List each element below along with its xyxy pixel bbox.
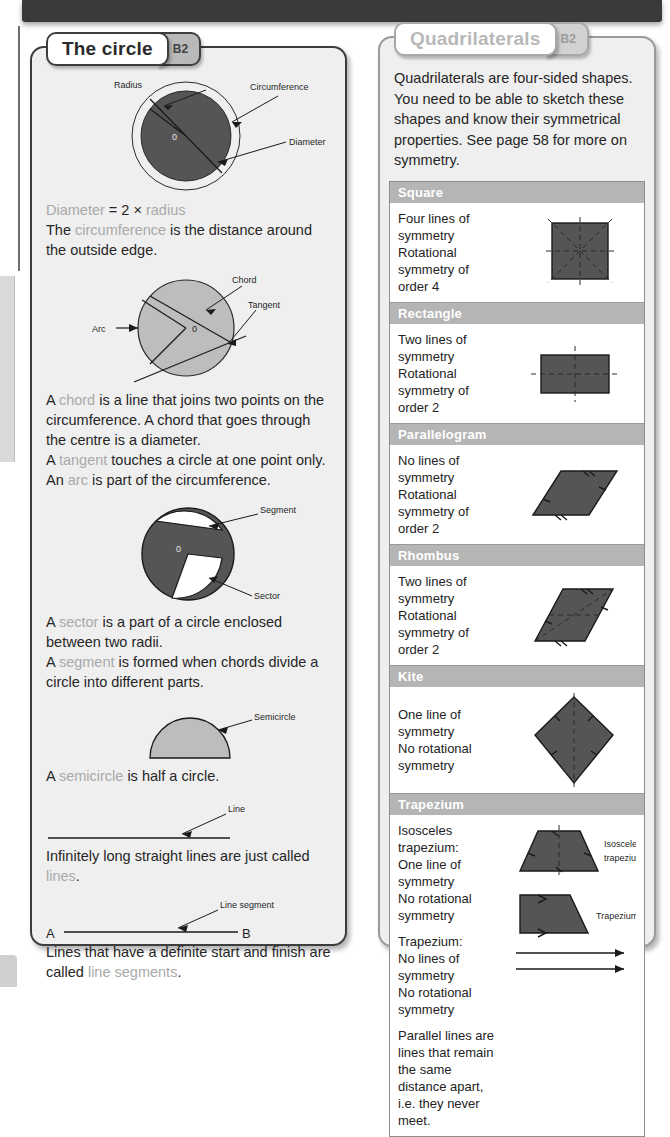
kw-circumference: circumference xyxy=(75,222,166,238)
parallel-lines-note: Parallel lines are lines that remain the… xyxy=(398,1027,502,1129)
trap-line-3: No rotational symmetry xyxy=(398,984,502,1018)
parallelogram-line-1: No lines of symmetry xyxy=(398,452,502,486)
text-equals: = 2 × xyxy=(105,202,146,218)
kw-sector: sector xyxy=(59,614,99,630)
text-line-def: Infinitely long straight lines are just … xyxy=(46,846,334,886)
label-point-b: B xyxy=(242,926,251,941)
text-tangent-def: A tangent touches a circle at one point … xyxy=(46,450,334,470)
figure-line: Line xyxy=(46,798,334,846)
label-circumference: Circumference xyxy=(250,82,309,92)
iso-trap-line-2: One line of symmetry xyxy=(398,856,502,890)
label-isosceles-1: Isosceles xyxy=(604,839,636,849)
kw-lines: lines xyxy=(46,868,76,884)
label-isosceles-2: trapezium xyxy=(604,853,636,863)
shape-header-rhombus: Rhombus xyxy=(390,545,644,566)
label-centre-3: 0 xyxy=(176,544,181,554)
square-shape-icon xyxy=(510,211,644,293)
text-semicircle-def: A semicircle is half a circle. xyxy=(46,766,334,786)
shape-header-parallelogram: Parallelogram xyxy=(390,424,644,445)
text-sector-def: A sector is a part of a circle enclosed … xyxy=(46,612,334,652)
text-arc-rest: is part of the circumference. xyxy=(88,472,271,488)
shape-desc-parallelogram: No lines of symmetry Rotational symmetry… xyxy=(390,445,510,544)
shape-desc-kite: One line of symmetry No rotational symme… xyxy=(390,699,510,781)
square-line-1: Four lines of symmetry xyxy=(398,210,502,244)
rectangle-line-1: Two lines of symmetry xyxy=(398,331,502,365)
shape-desc-rhombus: Two lines of symmetry Rotational symmetr… xyxy=(390,566,510,665)
iso-trap-line-1: Isosceles trapezium: xyxy=(398,822,502,856)
label-semicircle: Semicircle xyxy=(254,712,296,722)
kite-line-2: No rotational symmetry xyxy=(398,740,502,774)
iso-trap-line-3: No rotational symmetry xyxy=(398,890,502,924)
text-a2: A xyxy=(46,452,59,468)
label-radius: Radius xyxy=(114,80,143,90)
kw-line-segments: line segments xyxy=(88,964,177,980)
text-a3: An xyxy=(46,472,68,488)
shape-row-rectangle: Two lines of symmetry Rotational symmetr… xyxy=(390,324,644,424)
trapezium-shape-icon: Trapezium xyxy=(512,887,636,943)
quadrilaterals-panel-title: Quadrilaterals xyxy=(394,22,557,56)
shape-header-kite: Kite xyxy=(390,666,644,687)
quadrilaterals-panel: Quadrilaterals B2 Quadrilaterals are fou… xyxy=(378,36,656,947)
kw-chord: chord xyxy=(59,392,95,408)
text-a1: A xyxy=(46,392,59,408)
rhombus-line-1: Two lines of symmetry xyxy=(398,573,502,607)
text-a5: A xyxy=(46,654,59,670)
figure-chord-tangent-arc: Chord Tangent Arc 0 xyxy=(46,270,334,390)
kw-tangent: tangent xyxy=(59,452,107,468)
rectangle-line-2: Rotational symmetry of order 2 xyxy=(398,365,502,416)
text-tangent-rest: touches a circle at one point only. xyxy=(107,452,325,468)
text-a7: Infinitely long straight lines are just … xyxy=(46,848,310,864)
label-point-a: A xyxy=(46,926,55,941)
shape-header-square: Square xyxy=(390,182,644,203)
trapezium-shape-icons: Isosceles trapezium Trapezium xyxy=(510,815,644,981)
text-arc-def: An arc is part of the circumference. xyxy=(46,470,334,490)
text-a4: A xyxy=(46,614,59,630)
circle-content: Radius Circumference Diameter 0 Diameter… xyxy=(46,74,334,982)
kite-shape-icon xyxy=(510,687,644,793)
page-edge-line xyxy=(18,26,20,271)
shape-table: Square Four lines of symmetry Rotational… xyxy=(389,181,645,1137)
parallel-lines-icon xyxy=(512,943,636,977)
square-line-2: Rotational symmetry of order 4 xyxy=(398,244,502,295)
figure-segment-sector: Segment Sector 0 xyxy=(46,500,334,612)
text-circumference-def: The circumference is the distance around… xyxy=(46,220,334,260)
kite-line-1: One line of symmetry xyxy=(398,706,502,740)
text-the: The xyxy=(46,222,75,238)
shape-row-rhombus: Two lines of symmetry Rotational symmetr… xyxy=(390,566,644,666)
quadrilaterals-content: Quadrilaterals are four-sided shapes. Yo… xyxy=(380,68,654,1137)
quadrilaterals-panel-header: Quadrilaterals B2 xyxy=(394,22,589,56)
trap-line-1: Trapezium: xyxy=(398,933,502,950)
top-banner xyxy=(22,0,662,22)
shape-desc-square: Four lines of symmetry Rotational symmet… xyxy=(390,203,510,302)
text-line-rest: . xyxy=(76,868,80,884)
label-diameter: Diameter xyxy=(289,137,326,147)
label-line-segment: Line segment xyxy=(220,900,275,910)
trap-line-2: No lines of symmetry xyxy=(398,950,502,984)
text-semicircle-rest: is half a circle. xyxy=(123,768,219,784)
label-tangent: Tangent xyxy=(248,300,281,310)
label-trapezium: Trapezium xyxy=(596,911,636,921)
text-diameter-formula: Diameter = 2 × radius xyxy=(46,200,334,220)
rhombus-shape-icon xyxy=(510,571,644,659)
kw-semicircle: semicircle xyxy=(59,768,123,784)
rhombus-line-2: Rotational symmetry of order 2 xyxy=(398,607,502,658)
shape-header-rectangle: Rectangle xyxy=(390,303,644,324)
kw-diameter: Diameter xyxy=(46,202,105,218)
kw-arc: arc xyxy=(68,472,88,488)
circle-panel-header: The circle B2 xyxy=(46,32,201,66)
figure-line-segment: Line segment A B xyxy=(46,894,334,942)
label-segment: Segment xyxy=(260,505,297,515)
shape-row-kite: One line of symmetry No rotational symme… xyxy=(390,687,644,794)
figure-semicircle: Semicircle xyxy=(46,704,334,766)
figure-circle-parts: Radius Circumference Diameter 0 xyxy=(46,74,334,194)
text-line-seg-rest: . xyxy=(177,964,181,980)
kw-segment: segment xyxy=(59,654,115,670)
label-chord: Chord xyxy=(232,275,257,285)
text-a6: A xyxy=(46,768,59,784)
shape-row-parallelogram: No lines of symmetry Rotational symmetry… xyxy=(390,445,644,545)
quadrilaterals-intro: Quadrilaterals are four-sided shapes. Yo… xyxy=(380,68,654,171)
circle-panel-title: The circle xyxy=(46,32,169,66)
label-line: Line xyxy=(228,804,245,814)
text-chord-def: A chord is a line that joins two points … xyxy=(46,390,334,450)
page-corner-tab xyxy=(0,955,17,987)
